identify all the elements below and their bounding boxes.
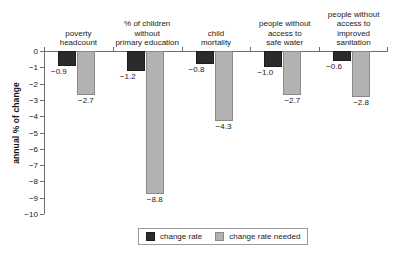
bar-change-rate-needed xyxy=(77,51,95,95)
bar-value-label: −0.6 xyxy=(314,62,354,71)
y-axis-tick-label: −6 xyxy=(29,144,38,153)
plot-area: 0−1−2−3−4−5−6−7−8−9−10−0.9−2.7−1.2−8.8−0… xyxy=(44,51,388,214)
bar-change-rate xyxy=(196,51,214,64)
chart-legend: change rate change rate needed xyxy=(138,228,308,245)
bar-value-label: −8.8 xyxy=(135,195,175,204)
category-header-row: povertyheadcount% of childrenwithoutprim… xyxy=(44,0,388,51)
y-axis-tick xyxy=(40,214,44,215)
y-axis-tick-label: −2 xyxy=(29,79,38,88)
category-separator xyxy=(319,47,320,51)
category-label: povertyheadcount xyxy=(44,29,113,48)
category-separator xyxy=(182,47,183,51)
bar-value-label: −2.7 xyxy=(272,96,312,105)
category-label-line: headcount xyxy=(44,38,113,48)
y-axis-tick-label: −7 xyxy=(29,161,38,170)
y-axis-tick-label: 0 xyxy=(34,47,38,56)
y-axis-tick xyxy=(40,51,44,52)
y-axis-tick-label: −4 xyxy=(29,112,38,121)
y-axis-tick xyxy=(40,84,44,85)
category-label: childmortality xyxy=(182,29,251,48)
bar-chart: annual % of change povertyheadcount% of … xyxy=(0,0,404,260)
bar-change-rate xyxy=(264,51,282,67)
bar-change-rate xyxy=(127,51,145,71)
legend-swatch-icon xyxy=(146,232,155,241)
legend-item-change-rate-needed: change rate needed xyxy=(215,232,300,241)
category-label-line: primary education xyxy=(113,38,182,48)
category-label-line: people without xyxy=(250,19,319,29)
y-axis-tick-label: −8 xyxy=(29,177,38,186)
legend-label: change rate needed xyxy=(229,232,300,241)
legend-item-change-rate: change rate xyxy=(146,232,202,241)
y-axis-tick xyxy=(40,133,44,134)
y-axis-tick-label: −3 xyxy=(29,95,38,104)
bar-value-label: −2.7 xyxy=(66,96,106,105)
category-separator xyxy=(113,47,114,51)
bar-value-label: −1.2 xyxy=(108,72,148,81)
bar-change-rate-needed xyxy=(352,51,370,97)
category-separator xyxy=(387,47,388,51)
bar-change-rate xyxy=(58,51,76,66)
category-label-line: access to xyxy=(250,29,319,39)
bar-change-rate-needed xyxy=(146,51,164,194)
category-label-line: improved sanitation xyxy=(319,29,388,48)
bar-value-label: −2.8 xyxy=(341,98,381,107)
bar-value-label: −0.8 xyxy=(177,65,217,74)
category-label-line: mortality xyxy=(182,38,251,48)
legend-label: change rate xyxy=(160,232,202,241)
y-axis-tick-label: −5 xyxy=(29,128,38,137)
category-label: people withoutaccess toimproved sanitati… xyxy=(319,10,388,48)
y-axis-tick xyxy=(40,116,44,117)
category-label-line: safe water xyxy=(250,38,319,48)
category-separator xyxy=(250,47,251,51)
category-label-line: people without xyxy=(319,10,388,20)
y-axis-tick xyxy=(40,100,44,101)
bar-value-label: −1.0 xyxy=(245,68,285,77)
bar-value-label: −0.9 xyxy=(39,67,79,76)
bar-change-rate-needed xyxy=(215,51,233,121)
y-axis-tick xyxy=(40,165,44,166)
y-axis-tick-label: −9 xyxy=(29,193,38,202)
y-axis-tick xyxy=(40,198,44,199)
category-label-line: access to xyxy=(319,19,388,29)
legend-swatch-icon xyxy=(215,232,224,241)
category-separator xyxy=(44,47,45,51)
category-label: % of childrenwithoutprimary education xyxy=(113,19,182,48)
bar-change-rate-needed xyxy=(283,51,301,95)
category-label: people withoutaccess tosafe water xyxy=(250,19,319,48)
y-axis-tick-label: −10 xyxy=(24,210,38,219)
category-label-line: % of children xyxy=(113,19,182,29)
category-label-line: without xyxy=(113,29,182,39)
y-axis-tick-label: −1 xyxy=(29,63,38,72)
category-label-line: poverty xyxy=(44,29,113,39)
category-label-line: child xyxy=(182,29,251,39)
bar-value-label: −4.3 xyxy=(204,122,244,131)
y-axis-tick xyxy=(40,149,44,150)
y-axis-title: annual % of change xyxy=(11,63,21,183)
y-axis-tick xyxy=(40,181,44,182)
bar-change-rate xyxy=(333,51,351,61)
